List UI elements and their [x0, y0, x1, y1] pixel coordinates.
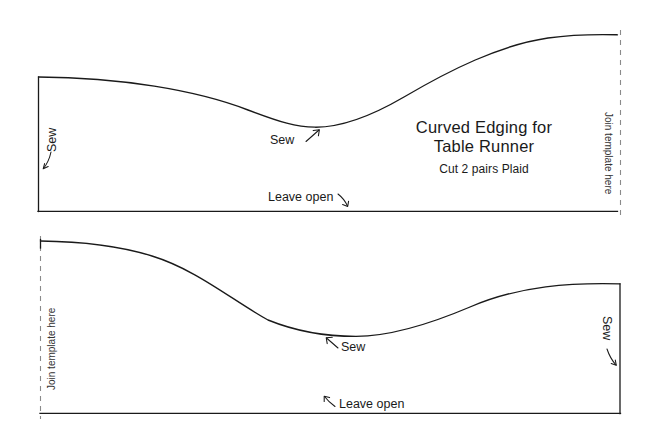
top-sew-curve-arrow-icon: [306, 130, 319, 142]
bottom-sew-right-arrow-icon: [607, 349, 616, 365]
bottom-sew-curve-arrow-icon: [326, 337, 338, 348]
bottom-leaveopen-arrow-icon: [324, 396, 335, 406]
bottom-panel-leave-open-label: Leave open: [339, 397, 404, 411]
top-panel-leave-open-label: Leave open: [268, 190, 333, 204]
title-subtitle: Cut 2 pairs Plaid: [396, 162, 572, 176]
bottom-panel-join-template-label: Join template here: [46, 308, 57, 390]
top-panel-sew-curve-label: Sew: [270, 133, 294, 147]
pattern-sheet: [0, 0, 655, 443]
top-panel-curve: [39, 35, 618, 128]
bottom-panel-curve: [41, 241, 621, 336]
top-panel-join-template-label: Join template here: [603, 112, 614, 194]
top-panel-sew-left-label: Sew: [45, 128, 59, 152]
bottom-panel-sew-right-label: Sew: [600, 316, 614, 340]
top-leaveopen-arrow-icon: [338, 194, 349, 206]
title-line-1: Curved Edging for: [396, 118, 572, 137]
bottom-panel-sew-curve-label: Sew: [341, 340, 365, 354]
bottom-panel: [40, 236, 621, 419]
title-block: Curved Edging for Table Runner Cut 2 pai…: [396, 118, 572, 176]
top-sew-left-arrow-icon: [43, 152, 51, 169]
title-line-2: Table Runner: [396, 137, 572, 156]
